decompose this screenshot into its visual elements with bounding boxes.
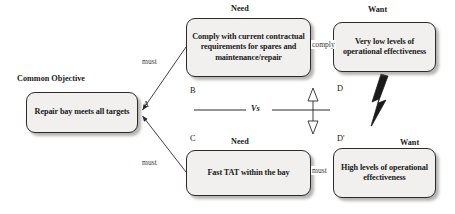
tag-a: A [143, 100, 149, 109]
tag-b: B [190, 86, 196, 95]
caption-common-objective: Common Objective [17, 74, 85, 83]
evaporating-cloud-diagram: Repair bay meets all targets Comply with… [0, 0, 455, 214]
caption-need-b: Need [231, 4, 249, 13]
caption-need-c: Need [231, 137, 249, 146]
lightning-bolt-icon [371, 74, 388, 126]
node-want-dprime: High levels of operational effectiveness [333, 148, 436, 198]
tag-dprime: D' [337, 134, 345, 143]
edge-label-b-to-a: must [141, 57, 158, 66]
double-headed-arrow-icon [308, 88, 318, 134]
node-common-objective: Repair bay meets all targets [26, 92, 138, 133]
caption-want-d: Want [368, 5, 387, 14]
node-want-d: Very low levels of operational effective… [333, 22, 436, 72]
node-need-b: Comply with current contractual requirem… [186, 18, 311, 77]
edge-label-dprime-to-c: must [311, 166, 328, 175]
tag-d: D [337, 84, 343, 93]
node-need-c: Fast TAT within the bay [186, 150, 311, 196]
conflict-vs-label: Vs [249, 104, 262, 113]
node-b-text: Comply with current contractual requirem… [191, 32, 306, 64]
node-d-text: Very low levels of operational effective… [338, 37, 431, 58]
node-dprime-text: High levels of operational effectiveness [338, 163, 431, 184]
node-a-text: Repair bay meets all targets [35, 107, 130, 118]
edge-label-d-to-b: comply [311, 40, 336, 49]
edge-label-c-to-a: must [141, 158, 158, 167]
node-c-text: Fast TAT within the bay [207, 168, 289, 179]
caption-want-dprime: Want [400, 138, 419, 147]
tag-c: C [190, 134, 196, 143]
